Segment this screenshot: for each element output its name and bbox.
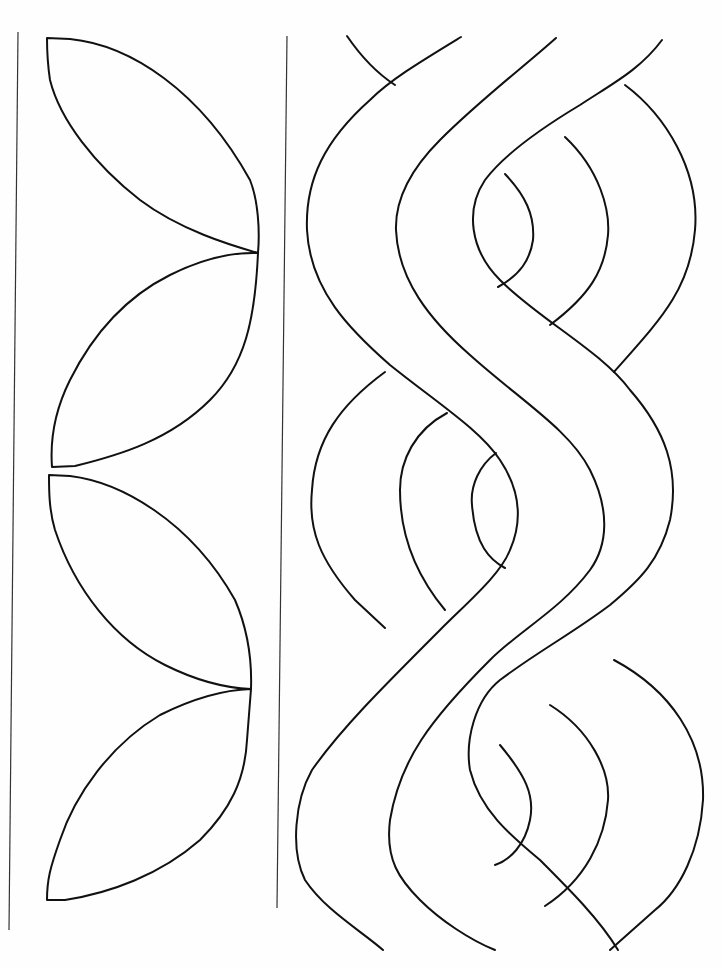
- left-border-line: [9, 32, 18, 930]
- middle-border-line: [277, 36, 287, 908]
- braid-stroke: [347, 36, 395, 85]
- line-art: [0, 0, 723, 969]
- leaf-1: [47, 38, 259, 253]
- leaf-2: [52, 253, 258, 467]
- braid-stroke: [296, 37, 518, 950]
- braid-stroke: [469, 40, 673, 950]
- leaf-motif-group: [47, 38, 259, 900]
- braid-stroke: [400, 413, 447, 610]
- leaf-3: [49, 475, 251, 689]
- braid-stroke: [610, 660, 703, 950]
- coloring-page: Quilting border patterns: [0, 0, 723, 969]
- braid-stroke: [498, 174, 533, 287]
- braid-stroke: [389, 38, 604, 950]
- cable-braid-group: [296, 36, 703, 950]
- braid-stroke: [472, 453, 505, 568]
- braid-stroke: [614, 85, 695, 372]
- leaf-4: [47, 689, 251, 900]
- braid-stroke: [311, 372, 385, 628]
- braid-stroke: [550, 137, 608, 325]
